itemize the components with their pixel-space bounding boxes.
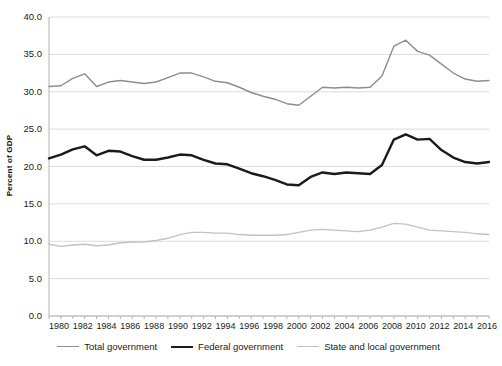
legend-line-icon-state [297, 346, 319, 347]
legend-label-federal: Federal government [198, 341, 283, 352]
y-axis-tick-label: 20.0 [8, 162, 42, 172]
y-axis-tick-label: 15.0 [8, 199, 42, 209]
y-axis-tick-label: 10.0 [8, 236, 42, 246]
y-axis-tick-label: 35.0 [8, 49, 42, 59]
legend-label-state: State and local government [324, 341, 440, 352]
legend-item-federal-government[interactable]: Federal government [171, 341, 283, 352]
y-axis-tick-label: 5.0 [8, 274, 42, 284]
legend-item-total-government[interactable]: Total government [57, 341, 157, 352]
gridlines-group [49, 17, 489, 316]
y-axis-tick-label: 40.0 [8, 12, 42, 22]
series-line-state-and-local-government [49, 223, 489, 246]
x-axis-tick-label: 2016 [470, 321, 502, 331]
legend-item-state-and-local-government[interactable]: State and local government [297, 341, 440, 352]
series-line-federal-government [49, 134, 489, 185]
y-axis-tick-label: 30.0 [8, 87, 42, 97]
legend-line-icon-total [57, 346, 79, 347]
data-series-group [49, 40, 489, 246]
legend-label-total: Total government [84, 341, 157, 352]
y-axis-tick-label: 0.0 [8, 311, 42, 321]
chart-legend: Total government Federal government Stat… [0, 341, 497, 352]
y-axis-tick-label: 25.0 [8, 124, 42, 134]
legend-line-icon-federal [171, 346, 193, 348]
series-line-total-government [49, 40, 489, 105]
